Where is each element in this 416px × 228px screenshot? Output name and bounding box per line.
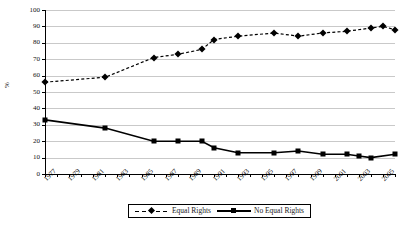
data-point-marker — [103, 126, 108, 131]
chart-legend: Equal Rights No Equal Rights — [128, 204, 311, 218]
data-point-marker — [320, 152, 325, 157]
data-point-marker — [368, 155, 373, 160]
legend-swatch-dashed-diamond — [135, 207, 169, 215]
data-point-marker — [296, 149, 301, 154]
data-point-marker — [356, 153, 361, 158]
legend-item-equal-rights[interactable]: Equal Rights — [135, 207, 211, 215]
legend-label: Equal Rights — [172, 207, 211, 215]
data-point-marker — [175, 139, 180, 144]
data-point-marker — [393, 152, 398, 157]
data-point-marker — [236, 150, 241, 155]
series-lines — [0, 0, 416, 228]
chart-root: % 0102030405060708090100 197719791981198… — [0, 0, 416, 228]
data-point-marker — [199, 139, 204, 144]
legend-item-no-equal-rights[interactable]: No Equal Rights — [217, 207, 304, 215]
data-point-marker — [211, 145, 216, 150]
legend-label: No Equal Rights — [254, 207, 304, 215]
data-point-marker — [43, 117, 48, 122]
data-point-marker — [344, 152, 349, 157]
legend-swatch-solid-square — [217, 207, 251, 215]
data-point-marker — [272, 150, 277, 155]
data-point-marker — [151, 139, 156, 144]
series-line-no-equal-rights — [45, 120, 395, 158]
series-line-equal-rights — [45, 26, 395, 82]
